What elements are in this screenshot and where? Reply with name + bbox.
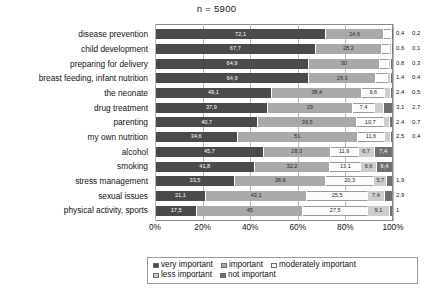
category-label: alcohol (0, 145, 152, 160)
chart-title: n = 5900 (0, 3, 433, 14)
outside-label-row: 2,40,5 (396, 86, 433, 101)
bar-segment (390, 206, 392, 216)
bar-segment: 72,1 (156, 29, 326, 39)
bar-value-label: 72,1 (235, 32, 246, 38)
bar-value-label: 67,7 (230, 46, 241, 52)
bar-segment (391, 73, 392, 83)
legend-swatch-icon (271, 263, 277, 268)
bar-value-label: 7,4 (379, 149, 387, 155)
bar-segment: 45 (197, 206, 303, 216)
bar-value-label: 28,3 (291, 149, 302, 155)
x-axis-tick-label: 100% (382, 222, 403, 232)
bar-segment (391, 132, 392, 142)
stacked-bar: 17,54527,59,1 (156, 206, 392, 216)
bar-segment (382, 44, 390, 54)
outside-value-primary: 0,6 (396, 46, 412, 52)
category-label: my own nutrition (0, 130, 152, 145)
bar-value-label: 9,6 (369, 90, 377, 96)
bar-segment: 7,4 (375, 147, 392, 157)
bar-segment: 37,9 (156, 103, 268, 113)
legend-item[interactable]: not important (220, 271, 276, 279)
category-label: smoking (0, 159, 152, 174)
bar-segment: 20,3 (326, 176, 374, 186)
bar-segment: 67,7 (156, 44, 316, 54)
category-label: drug treatment (0, 100, 152, 115)
outside-value-primary: 1,4 (396, 75, 412, 81)
bar-value-label: 24,6 (349, 32, 360, 38)
stacked-bar: 21,143,125,57,4 (156, 191, 392, 201)
bar-segment: 32,2 (255, 162, 331, 172)
outside-value-primary: 1 (396, 208, 412, 214)
bar-segment: 17,5 (156, 206, 197, 216)
stacked-bar: 34,65111,6 (156, 132, 392, 142)
outside-value-primary: 2,4 (396, 120, 412, 126)
table-row: 34,65111,6 (156, 130, 392, 145)
bar-value-label: 32,2 (287, 164, 298, 170)
bar-segment (376, 73, 388, 83)
outside-label-row (396, 145, 433, 160)
bar-value-label: 9,1 (375, 208, 383, 214)
stacked-bar: 49,138,49,6 (156, 88, 392, 98)
category-label: disease prevention (0, 27, 152, 42)
stacked-bar: 45,728,311,96,77,4 (156, 147, 392, 157)
legend-item[interactable]: less important (153, 271, 212, 279)
table-row: 64,928,3 (156, 71, 392, 86)
outside-label-row: 2,40,7 (396, 115, 433, 130)
bar-value-label: 21,1 (175, 193, 186, 199)
outside-label-row: 0,40,2 (396, 27, 433, 42)
bar-value-label: 41,8 (199, 164, 210, 170)
bar-segment (391, 88, 392, 98)
outside-value-secondary: 0,7 (412, 120, 428, 126)
legend-swatch-icon (153, 263, 159, 268)
x-axis-tick-label: 80% (337, 222, 354, 232)
legend-item[interactable]: moderately important (271, 261, 356, 269)
bar-value-label: 7,4 (360, 105, 368, 111)
bar-segment (380, 59, 390, 69)
bar-segment: 6,6 (361, 162, 377, 172)
outside-value-primary: 2,9 (396, 193, 412, 199)
bars-area: 72,124,667,728,264,93064,928,349,138,49,… (156, 27, 392, 218)
category-label: preparing for delivery (0, 56, 152, 71)
outside-label-row: 0,60,1 (396, 42, 433, 57)
bar-segment: 25,5 (307, 191, 367, 201)
outside-value-secondary: 0,3 (412, 61, 428, 67)
bar-segment: 6,4 (377, 162, 392, 172)
bar-segment: 39,5 (258, 117, 357, 127)
bar-segment: 30 (309, 59, 380, 69)
bar-value-label: 45 (247, 208, 253, 214)
bar-segment: 29 (268, 103, 353, 113)
outside-label-row: 2,50,4 (396, 130, 433, 145)
bar-segment: 27,5 (303, 206, 368, 216)
bar-segment: 7,4 (353, 103, 375, 113)
stacked-bar: 67,728,2 (156, 44, 392, 54)
table-row: 21,143,125,57,4 (156, 189, 392, 204)
bar-value-label: 30 (341, 61, 347, 67)
bar-value-label: 43,1 (251, 193, 262, 199)
bar-segment (387, 176, 391, 186)
outside-label-row: 1,40,4 (396, 71, 433, 86)
bar-segment: 5,7 (374, 176, 387, 186)
bar-value-label: 6,4 (381, 164, 389, 170)
bar-value-label: 33,5 (190, 178, 201, 184)
stacked-bar: 37,9297,4 (156, 103, 392, 113)
bar-value-label: 38,6 (275, 178, 286, 184)
chart-container: n = 5900 disease preventionchild develop… (0, 0, 433, 297)
category-label: child development (0, 42, 152, 57)
bar-segment: 28,3 (264, 147, 331, 157)
bar-segment: 13,1 (330, 162, 361, 172)
category-label: stress management (0, 174, 152, 189)
bar-segment: 64,9 (156, 59, 309, 69)
legend-item[interactable]: very important (153, 261, 213, 269)
bar-segment: 49,1 (156, 88, 272, 98)
legend-item[interactable]: important (221, 261, 263, 269)
outside-label-row: 2,9 (396, 189, 433, 204)
outside-value-secondary: 0,1 (412, 46, 428, 52)
bar-value-label: 40,7 (201, 120, 212, 126)
chart-legend: very importantimportantmoderately import… (147, 257, 418, 284)
bar-segment: 24,6 (326, 29, 384, 39)
bar-value-label: 64,9 (227, 76, 238, 82)
legend-row-bottom: less importantnot important (153, 271, 413, 279)
bar-segment (390, 117, 392, 127)
outside-label-row: 0,80,3 (396, 56, 433, 71)
legend-swatch-icon (220, 273, 226, 278)
